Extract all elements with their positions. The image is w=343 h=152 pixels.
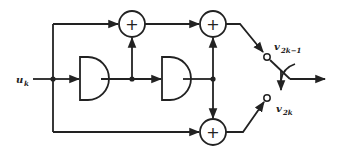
adder-top-left: + — [119, 11, 145, 37]
svg-text:+: + — [125, 15, 138, 34]
encoder-diagram: u k + + + v — [0, 0, 343, 152]
adder-bottom: + — [200, 119, 226, 145]
wire-adder3-to-switch — [226, 102, 264, 132]
adder-top-right: + — [200, 11, 226, 37]
wire-adder2-to-switch — [226, 24, 263, 52]
svg-text:+: + — [206, 15, 219, 34]
svg-text:2k−1: 2k−1 — [280, 46, 301, 55]
svg-text:v: v — [274, 41, 280, 52]
switch-contact-lower — [264, 95, 270, 101]
svg-text:v: v — [276, 103, 282, 114]
svg-text:2k: 2k — [282, 108, 293, 117]
output-label-odd: v 2k−1 — [274, 41, 301, 55]
switch-contact-upper — [264, 54, 270, 60]
output-label-even: v 2k — [276, 103, 293, 117]
svg-text:k: k — [24, 79, 29, 88]
svg-text:+: + — [206, 123, 219, 142]
svg-text:u: u — [16, 74, 23, 85]
input-label: u k — [16, 74, 29, 88]
